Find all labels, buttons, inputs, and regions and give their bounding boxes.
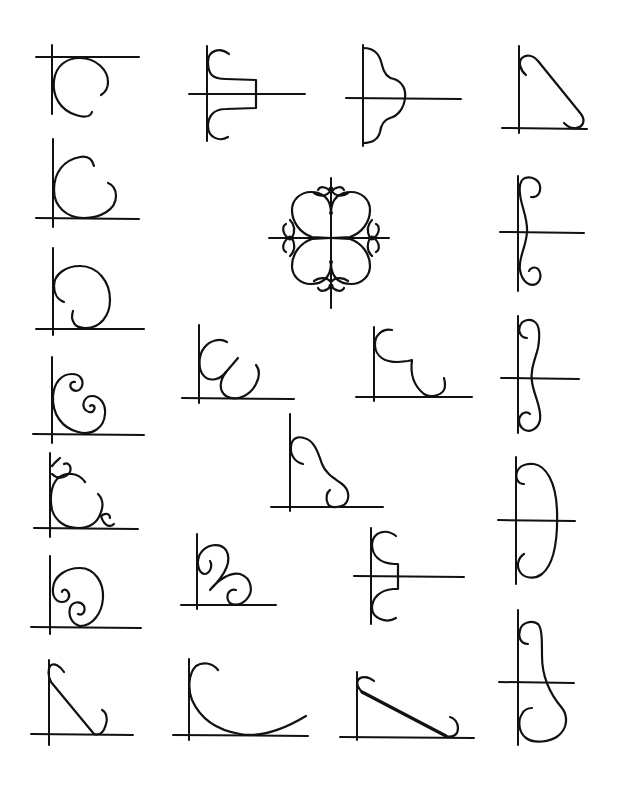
ornament-sheet [0, 0, 619, 785]
figure-large-scroll-hook [36, 248, 144, 335]
figure-d-bracket [498, 457, 575, 584]
figure-double-scroll-step-lower [354, 528, 464, 624]
figure-beaded-diagonal-brace [340, 672, 474, 740]
figure-lobed-bracket [346, 45, 461, 146]
figure-double-loop-scroll [182, 325, 294, 403]
figure-scroll-with-tips [34, 453, 138, 537]
figure-double-loop-point [181, 534, 276, 609]
figure-c-scroll-baseline [36, 139, 139, 227]
figure-slender-s-scroll [500, 176, 584, 291]
figure-double-scroll-step [189, 46, 305, 141]
figure-steep-diagonal-brace [31, 660, 133, 745]
figure-tall-s-scroll [501, 316, 579, 433]
ornament-drawings [0, 0, 619, 785]
figure-sweeping-curve [173, 659, 308, 740]
figure-s-curve-bracket [271, 414, 383, 511]
figure-circle-scroll-top [36, 45, 139, 117]
figure-diagonal-brace [502, 46, 587, 133]
figure-spiral-scroll [31, 556, 141, 634]
figure-bulging-scroll [499, 610, 574, 745]
figure-quatrefoil-ornament [269, 178, 389, 308]
figure-c-scroll-u-step [356, 327, 472, 401]
figure-scroll-inner-spirals [33, 357, 144, 443]
